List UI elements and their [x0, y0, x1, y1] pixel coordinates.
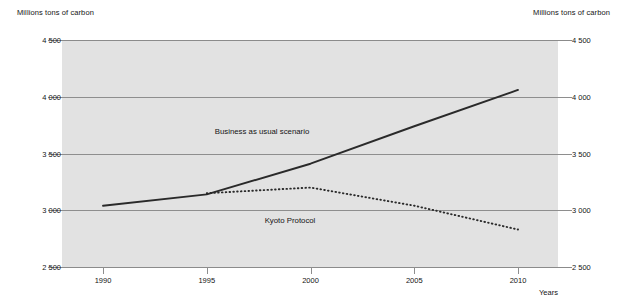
x-axis-tick [103, 267, 104, 274]
x-axis-tick-label: 2005 [406, 276, 423, 285]
chart-container: Millions tons of carbon Millions tons of… [0, 0, 621, 300]
x-axis-tick-label: 2000 [302, 276, 319, 285]
gridline [48, 154, 572, 155]
annotation-business-as-usual: Business as usual scenario [215, 127, 309, 136]
y-axis-tick-label: 3 500 [572, 149, 591, 158]
gridline [48, 40, 572, 41]
y-axis-tick-label: 3 000 [42, 206, 61, 215]
gridline [48, 210, 572, 211]
annotation-kyoto-protocol: Kyoto Protocol [265, 216, 316, 225]
x-axis-tick-label: 2010 [510, 276, 527, 285]
x-axis-title: Years [539, 288, 558, 297]
x-axis-tick [311, 267, 312, 274]
gridline [48, 97, 572, 98]
x-axis-tick-label: 1995 [198, 276, 215, 285]
y-axis-tick-label: 4 000 [42, 92, 61, 101]
y-axis-tick-label: 4 500 [42, 36, 61, 45]
x-axis-tick [518, 267, 519, 274]
y-axis-unit-label-left: Millions tons of carbon [17, 8, 94, 17]
y-axis-tick-label: 2 500 [572, 263, 591, 272]
y-axis-unit-label-right: Millions tons of carbon [533, 8, 610, 17]
y-axis-tick-label: 4 500 [572, 36, 591, 45]
x-axis-tick-label: 1990 [95, 276, 112, 285]
y-axis-tick-label: 3 000 [572, 206, 591, 215]
x-axis-tick [207, 267, 208, 274]
y-axis-tick-label: 4 000 [572, 92, 591, 101]
y-axis-tick-label: 3 500 [42, 149, 61, 158]
y-axis-tick-label: 2 500 [42, 263, 61, 272]
x-axis-tick [414, 267, 415, 274]
